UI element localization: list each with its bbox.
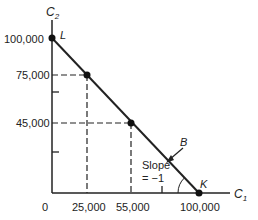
y-axis-label: C2 (46, 6, 59, 21)
point-l (49, 35, 56, 42)
x-tick-label-25000: 25,000 (72, 202, 106, 213)
x-axis-label: C1 (234, 188, 247, 203)
y-tick-label-100000: 100,000 (4, 34, 44, 45)
x-tick-label-0: 0 (42, 202, 48, 213)
point-label-k: K (200, 179, 207, 190)
budget-line-b (52, 38, 199, 193)
slope-angle-arc (178, 178, 185, 193)
y-tick-label-75000: 75,000 (16, 70, 50, 81)
point-25000-75000 (84, 72, 91, 79)
y-tick-label-45000: 45,000 (16, 118, 50, 129)
slope-value: = −1 (142, 173, 164, 184)
x-tick-label-55000: 55,000 (116, 202, 150, 213)
x-tick-label-100000: 100,000 (180, 202, 220, 213)
point-55000-45000 (128, 120, 135, 127)
slope-label: Slope (142, 160, 170, 171)
line-label-b: B (180, 137, 187, 148)
point-k (196, 190, 203, 197)
point-label-l: L (60, 30, 66, 41)
